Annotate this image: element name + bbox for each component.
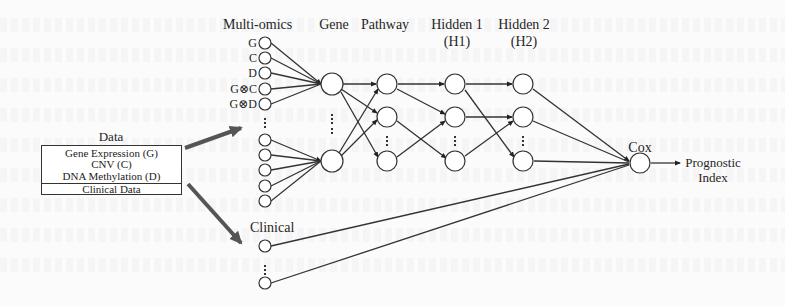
omics-data-section: Gene Expression (G) CNV (C) DNA Methylat… [42,146,181,184]
clinical-data-section: Clinical Data [42,184,181,195]
edges-omics-to-gene1 [271,43,321,104]
cox-label: Cox [628,140,651,156]
edges-pathway-to-h1 [397,84,446,158]
node-label-gxc: G⊗C [230,82,257,96]
data-to-clinical-arrow [188,184,241,243]
dna-methylation-label: DNA Methylation (D) [63,171,161,183]
edges-h1-to-h2 [465,84,514,157]
prognostic-index-label: Prognostic Index [685,155,741,185]
data-to-multiomics-arrow [185,128,241,148]
hidden1-layer-label: Hidden 1 [431,17,483,33]
edges-clinical-to-cox [271,164,629,283]
clinical-layer-label: Clinical [250,220,294,236]
data-box: Gene Expression (G) CNV (C) DNA Methylat… [41,145,182,195]
node-label-g: G [248,36,257,50]
ellipsis-dots [264,114,524,275]
gene-layer-label: Gene [319,17,349,33]
hidden1-nodes [445,74,465,171]
hidden2-nodes [513,74,533,171]
data-box-title: Data [99,129,124,145]
clinical-nodes [259,240,271,289]
node-label-c: C [249,51,257,65]
edges-omics-to-gene2 [271,140,321,201]
edges-h2-to-cox [533,89,629,163]
edges-gene-to-pathway [339,84,378,157]
multiomics-layer-label: Multi-omics [223,17,292,33]
cox-node [630,153,650,173]
hidden2-layer-sublabel: (H2) [511,34,537,50]
pathway-nodes [377,74,397,171]
node-label-gxd: G⊗D [230,97,257,111]
hidden2-layer-label: Hidden 2 [498,17,550,33]
pathway-layer-label: Pathway [361,17,409,33]
node-label-d: D [248,66,257,80]
clinical-data-label: Clinical Data [82,184,140,196]
hidden1-layer-sublabel: (H1) [444,34,470,50]
